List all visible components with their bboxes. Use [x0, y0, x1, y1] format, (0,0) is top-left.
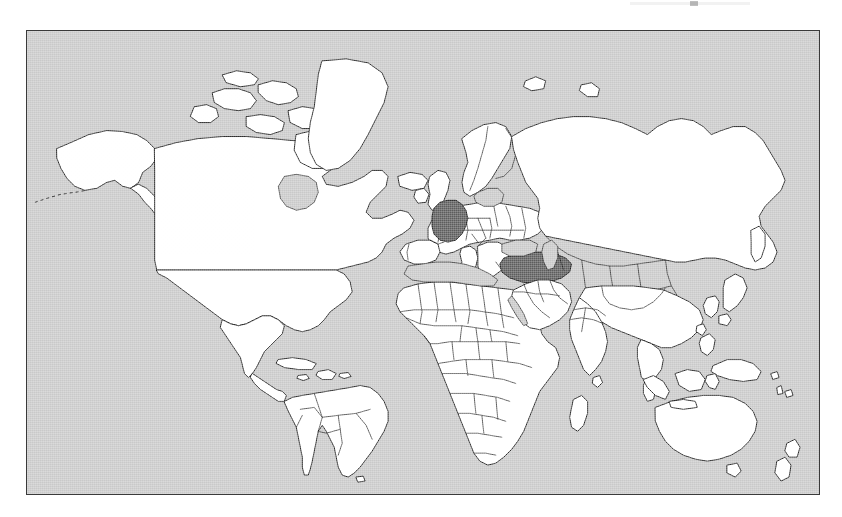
hispaniola: [316, 370, 336, 380]
continent-south-america: [284, 385, 388, 477]
central-america: [250, 374, 286, 402]
world-map-svg: [27, 31, 819, 494]
country-mexico: [221, 316, 285, 378]
new-zealand-south: [775, 457, 791, 481]
puerto-rico: [339, 373, 351, 379]
arctic-islands-5: [191, 105, 219, 123]
world-map-frame: [26, 30, 820, 495]
ireland: [414, 188, 429, 203]
japan: [723, 274, 747, 312]
aleutian-islands: [35, 190, 87, 202]
svalbard: [524, 77, 546, 91]
borneo: [675, 370, 705, 392]
falkland-islands: [356, 476, 365, 482]
taiwan: [696, 324, 706, 336]
java: [669, 399, 697, 409]
arctic-islands-3: [246, 115, 284, 135]
new-guinea: [711, 360, 761, 382]
vanuatu-islands: [777, 385, 783, 394]
philippines: [699, 334, 715, 356]
arctic-islands-2: [258, 81, 298, 105]
cuba: [276, 358, 316, 370]
iberian-peninsula: [400, 240, 440, 264]
fiji-islands: [785, 389, 793, 397]
region-greenland: [308, 59, 428, 190]
arctic-islands-1: [213, 89, 257, 111]
madagascar: [570, 395, 588, 431]
greenland: [308, 59, 388, 171]
country-alaska: [57, 131, 157, 191]
highlight-turkey[interactable]: [500, 252, 572, 284]
korea-peninsula: [703, 296, 719, 318]
japan-kyushu: [719, 314, 731, 326]
tasmania: [727, 463, 741, 477]
region-south-america: [284, 385, 388, 477]
novaya-zemlya: [580, 83, 600, 97]
page-root: [0, 0, 842, 517]
sri-lanka: [593, 376, 603, 388]
jamaica: [297, 375, 309, 381]
solomon-islands: [771, 372, 779, 380]
arctic-islands-6: [223, 71, 259, 87]
scan-artifact-mark: [690, 1, 698, 6]
iceland: [398, 172, 428, 190]
new-zealand-north: [785, 439, 800, 457]
